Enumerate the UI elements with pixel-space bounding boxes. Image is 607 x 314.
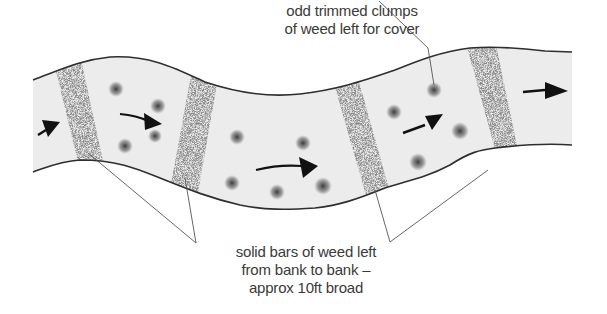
weed-clump bbox=[150, 98, 166, 114]
weed-clump bbox=[269, 184, 285, 200]
weed-clump bbox=[148, 129, 162, 143]
weed-clump bbox=[314, 177, 332, 195]
weed-clump bbox=[117, 138, 133, 154]
weed-clump bbox=[451, 122, 469, 140]
label-weed-bars: solid bars of weed left from bank to ban… bbox=[196, 243, 416, 297]
weed-clump bbox=[295, 135, 311, 151]
label-bars-line3: approx 10ft broad bbox=[196, 279, 416, 297]
label-weed-clumps: odd trimmed clumps of weed left for cove… bbox=[268, 2, 436, 38]
weed-clump bbox=[224, 175, 240, 191]
weed-clump bbox=[386, 104, 402, 120]
weed-clump bbox=[409, 153, 427, 171]
label-bars-line1: solid bars of weed left bbox=[196, 243, 416, 261]
weed-clump bbox=[229, 129, 245, 145]
label-clumps-line2: of weed left for cover bbox=[268, 20, 436, 38]
weed-clump bbox=[108, 81, 124, 97]
label-clumps-line1: odd trimmed clumps bbox=[268, 2, 436, 20]
label-bars-line2: from bank to bank – bbox=[196, 261, 416, 279]
